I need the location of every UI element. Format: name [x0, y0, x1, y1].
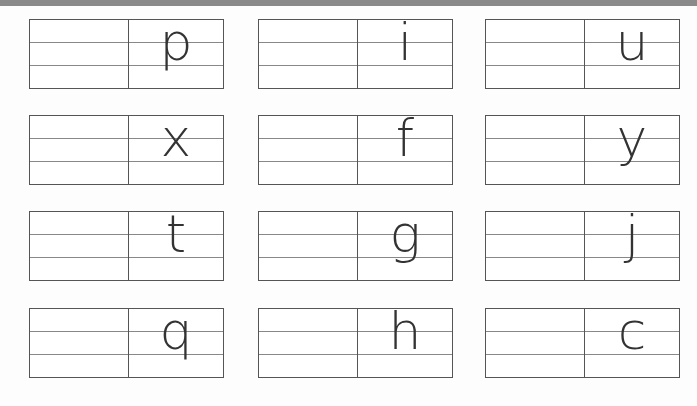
model-letter: t	[129, 208, 223, 260]
model-letter-area: y	[585, 116, 679, 184]
tracing-card-f: f	[258, 115, 453, 185]
tracing-card-i: i	[258, 19, 453, 89]
tracing-card-y: y	[485, 115, 680, 185]
writing-area[interactable]	[259, 116, 357, 184]
writing-area[interactable]	[30, 309, 128, 377]
model-letter-area: p	[129, 20, 223, 88]
writing-area[interactable]	[259, 20, 357, 88]
model-letter: q	[129, 305, 223, 357]
tracing-card-j: j	[485, 211, 680, 281]
scan-top-edge	[0, 0, 697, 6]
model-letter: u	[585, 16, 679, 68]
tracing-card-u: u	[485, 19, 680, 89]
model-letter-area: j	[585, 212, 679, 280]
model-letter: p	[129, 16, 223, 68]
model-letter: x	[129, 112, 223, 164]
writing-area[interactable]	[30, 212, 128, 280]
model-letter: g	[358, 208, 452, 260]
tracing-card-x: x	[29, 115, 224, 185]
tracing-card-q: q	[29, 308, 224, 378]
model-letter-area: i	[358, 20, 452, 88]
model-letter: f	[358, 112, 452, 164]
model-letter: y	[585, 112, 679, 164]
model-letter: c	[585, 305, 679, 357]
writing-area[interactable]	[30, 116, 128, 184]
model-letter-area: g	[358, 212, 452, 280]
model-letter-area: c	[585, 309, 679, 377]
tracing-card-h: h	[258, 308, 453, 378]
model-letter: h	[358, 305, 452, 357]
model-letter-area: x	[129, 116, 223, 184]
writing-area[interactable]	[259, 309, 357, 377]
writing-area[interactable]	[486, 116, 584, 184]
tracing-card-c: c	[485, 308, 680, 378]
writing-area[interactable]	[486, 20, 584, 88]
writing-area[interactable]	[259, 212, 357, 280]
model-letter-area: t	[129, 212, 223, 280]
model-letter-area: u	[585, 20, 679, 88]
tracing-card-g: g	[258, 211, 453, 281]
writing-area[interactable]	[30, 20, 128, 88]
model-letter: i	[358, 16, 452, 68]
writing-area[interactable]	[486, 212, 584, 280]
model-letter-area: h	[358, 309, 452, 377]
model-letter-area: q	[129, 309, 223, 377]
tracing-card-t: t	[29, 211, 224, 281]
model-letter-area: f	[358, 116, 452, 184]
model-letter: j	[585, 208, 679, 260]
tracing-card-p: p	[29, 19, 224, 89]
writing-area[interactable]	[486, 309, 584, 377]
